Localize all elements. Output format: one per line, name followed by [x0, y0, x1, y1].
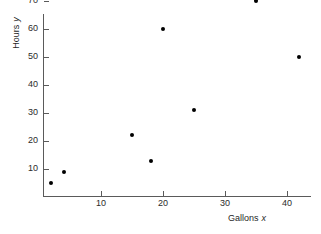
data-point [297, 55, 301, 59]
y-tick-10 [44, 169, 49, 170]
x-axis-title: Gallonsx [228, 213, 266, 223]
x-axis-title-text: Gallons [228, 213, 259, 223]
y-tick-20 [44, 141, 49, 142]
y-tick-label-40: 40 [12, 80, 38, 89]
data-point [192, 108, 196, 112]
y-tick-label-10: 10 [12, 164, 38, 173]
x-tick-label-10: 10 [86, 199, 116, 208]
x-tick-30 [225, 191, 226, 196]
data-point [149, 159, 153, 163]
y-tick-label-20: 20 [12, 136, 38, 145]
data-point [49, 181, 53, 185]
x-tick-40 [287, 191, 288, 196]
x-axis-variable: x [259, 213, 267, 223]
y-tick-70 [44, 1, 49, 2]
x-tick-20 [163, 191, 164, 196]
data-point [130, 133, 134, 137]
x-tick-label-20: 20 [148, 199, 178, 208]
y-tick-60 [44, 29, 49, 30]
y-tick-40 [44, 85, 49, 86]
data-point [254, 0, 258, 3]
y-tick-label-30: 30 [12, 108, 38, 117]
y-tick-50 [44, 57, 49, 58]
data-point [62, 170, 66, 174]
x-tick-label-30: 30 [210, 199, 240, 208]
y-axis-title-text: Hours [11, 25, 21, 49]
scatter-plot: 10203040506070 10203040 Hoursy Gallonsx [0, 0, 321, 234]
y-tick-label-text: 20 [14, 136, 38, 145]
y-axis-variable: y [11, 17, 21, 25]
y-tick-label-text: 40 [14, 80, 38, 89]
y-tick-30 [44, 113, 49, 114]
x-tick-10 [101, 191, 102, 196]
y-tick-label-text: 30 [14, 108, 38, 117]
y-axis-title: Hoursy [11, 3, 21, 63]
x-axis-line [43, 196, 311, 197]
data-point [161, 27, 165, 31]
y-tick-label-text: 10 [14, 164, 38, 173]
x-tick-label-40: 40 [272, 199, 302, 208]
